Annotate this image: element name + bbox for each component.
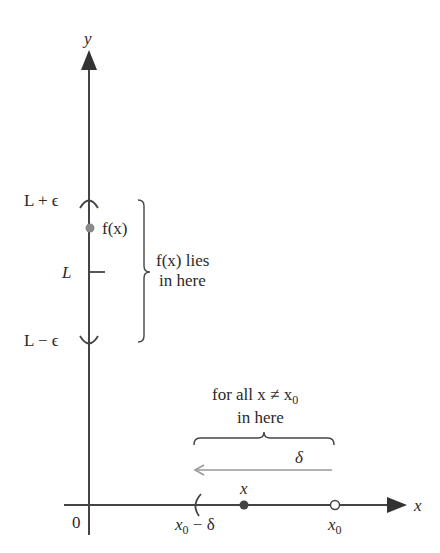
domain-brace: [194, 432, 334, 445]
delta-label: δ: [295, 448, 304, 467]
y-axis-label: y: [82, 29, 92, 48]
range-brace: [138, 200, 150, 342]
fx-point: [86, 224, 95, 233]
upper-bound-label: L + ϵ: [24, 191, 59, 210]
origin-label: 0: [72, 513, 81, 532]
fx-label: f(x): [102, 219, 127, 238]
x0-label: x0: [327, 515, 342, 537]
x-point: [240, 501, 249, 510]
epsilon-delta-diagram: y x 0 L + ϵ f(x) L L − ϵ f(x) lies in he…: [0, 0, 440, 553]
L-label: L: [61, 263, 71, 282]
lower-bound-label: L − ϵ: [24, 331, 59, 350]
x-axis-label: x: [413, 496, 422, 515]
domain-brace-line2: in here: [237, 408, 284, 427]
range-brace-line1: f(x) lies: [156, 251, 209, 270]
domain-brace-line1: for all x ≠ x0: [212, 385, 298, 407]
left-bound-label: x0 − δ: [174, 515, 215, 537]
x0-open-point: [331, 501, 340, 510]
x-point-label: x: [239, 479, 248, 498]
range-brace-line2: in here: [159, 271, 206, 290]
